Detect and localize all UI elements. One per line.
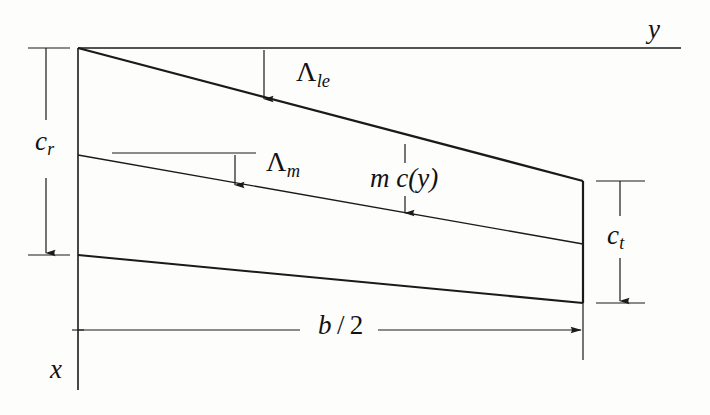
chord-fraction-label: m c(y) [370,165,438,192]
x-axis-label: x [50,356,62,383]
y-axis-label: y [648,16,660,43]
tip-chord-label: ct [607,222,624,249]
wing-planform-figure: y x cr ct Λle Λm m c(y) b / 2 [0,0,710,415]
semi-span-label: b / 2 [318,312,363,339]
mid-chord-sweep-label: Λm [266,148,300,176]
root-chord-label: cr [35,128,54,155]
planform-drawing [0,0,710,415]
trailing-edge-line [78,255,583,303]
leading-edge-sweep-label: Λle [296,58,330,86]
leading-edge-line [78,48,583,181]
mid-chord-line [78,155,583,244]
